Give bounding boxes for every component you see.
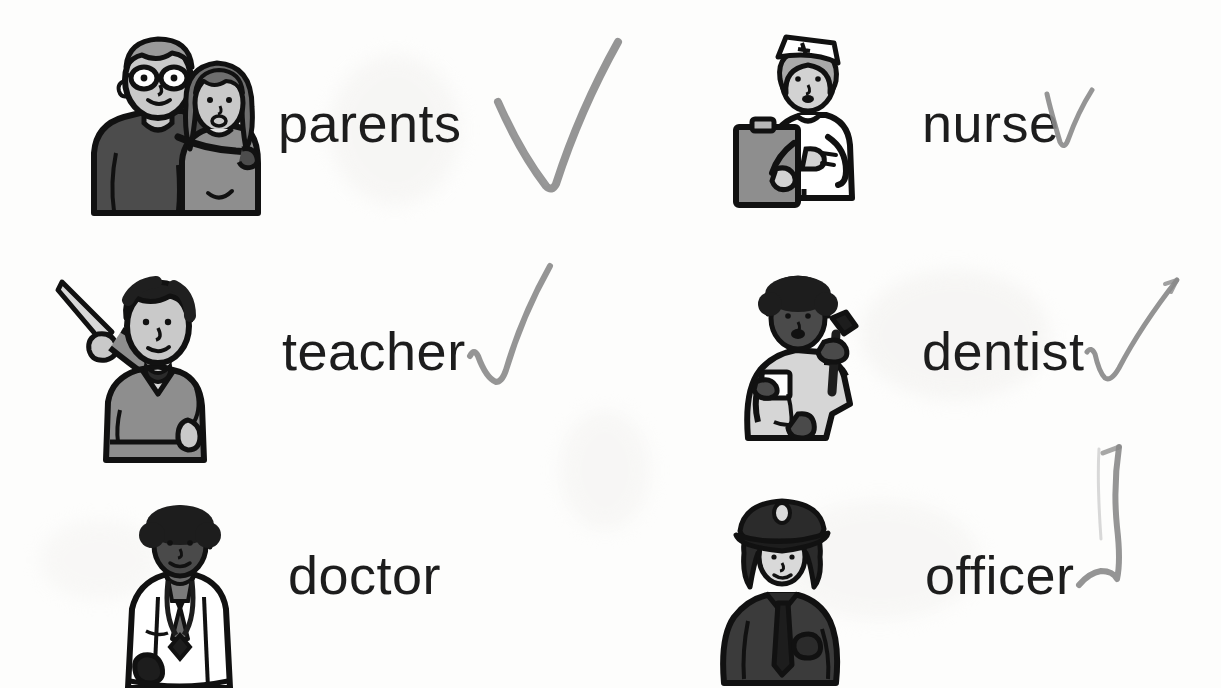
word-parents: parents xyxy=(278,96,462,150)
worksheet-page: parents xyxy=(0,0,1221,688)
word-nurse: nurse xyxy=(922,96,1060,150)
scan-artifact xyxy=(560,410,650,530)
word-teacher: teacher xyxy=(282,324,466,378)
police-officer-illustration xyxy=(718,495,848,683)
pencil-check-teacher xyxy=(464,262,570,386)
dentist-illustration xyxy=(736,272,876,444)
pencil-check-dentist xyxy=(1085,268,1185,390)
word-dentist: dentist xyxy=(922,324,1085,378)
teacher-illustration xyxy=(58,270,218,460)
nurse-illustration xyxy=(742,33,872,198)
doctor-illustration xyxy=(110,505,250,688)
parents-illustration xyxy=(86,33,262,213)
word-doctor: doctor xyxy=(288,548,441,602)
pencil-check-officer xyxy=(1075,443,1185,598)
pencil-check-parents xyxy=(490,34,630,194)
word-officer: officer xyxy=(925,548,1075,602)
